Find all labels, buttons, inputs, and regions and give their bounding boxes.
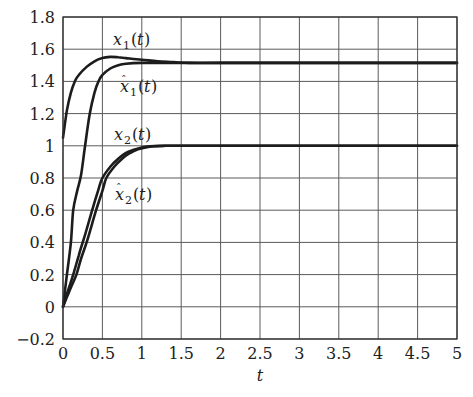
y-tick-label: 0.6 bbox=[30, 201, 55, 220]
svg-text:): ) bbox=[151, 77, 157, 96]
series-label-2: xˆ1(t) bbox=[120, 74, 157, 99]
y-tick-label: 1.8 bbox=[30, 8, 55, 27]
y-tick-label: 0.2 bbox=[30, 266, 55, 285]
svg-text:): ) bbox=[146, 185, 152, 204]
x-tick-label: 4 bbox=[373, 344, 383, 363]
svg-text:2: 2 bbox=[124, 134, 131, 147]
svg-text:ˆ: ˆ bbox=[116, 182, 122, 195]
x-tick-label: 3.5 bbox=[326, 344, 351, 363]
line-chart: −0.200.20.40.60.811.21.41.61.8 00.511.52… bbox=[0, 0, 473, 397]
y-tick-label: 0.4 bbox=[30, 233, 55, 252]
svg-text:1: 1 bbox=[130, 86, 137, 99]
series-label-4: xˆ2(t) bbox=[115, 182, 152, 207]
y-tick-label: 1.4 bbox=[30, 72, 55, 91]
y-tick-label: 1.6 bbox=[30, 40, 55, 59]
y-tick-label: 1.2 bbox=[30, 105, 55, 124]
svg-text:t: t bbox=[139, 185, 146, 204]
x-axis-label: t bbox=[257, 366, 264, 385]
x-tick-label: 2 bbox=[216, 344, 226, 363]
svg-text:t: t bbox=[144, 77, 151, 96]
svg-text:ˆ: ˆ bbox=[121, 74, 127, 87]
x-tick-label: 3 bbox=[294, 344, 304, 363]
y-tick-label: 0 bbox=[45, 298, 55, 317]
svg-text:): ) bbox=[144, 30, 150, 49]
svg-text:x: x bbox=[113, 30, 122, 49]
svg-text:x: x bbox=[114, 125, 123, 144]
svg-text:): ) bbox=[145, 125, 151, 144]
x-tick-label: 4.5 bbox=[405, 344, 430, 363]
x-tick-label: 1 bbox=[137, 344, 147, 363]
x-tick-label: 5 bbox=[452, 344, 462, 363]
y-tick-label: 0.8 bbox=[30, 169, 55, 188]
x-tick-label: 1.5 bbox=[168, 344, 193, 363]
svg-text:t: t bbox=[138, 125, 145, 144]
svg-text:t: t bbox=[137, 30, 144, 49]
y-tick-label: 1 bbox=[45, 137, 55, 156]
x-tick-label: 2.5 bbox=[247, 344, 272, 363]
series-label-1: x1(t) bbox=[113, 30, 150, 52]
x-tick-label: 0.5 bbox=[90, 344, 115, 363]
svg-text:2: 2 bbox=[125, 194, 132, 207]
svg-text:1: 1 bbox=[123, 39, 130, 52]
background bbox=[0, 0, 473, 397]
y-tick-label: −0.2 bbox=[16, 330, 55, 349]
x-tick-label: 0 bbox=[58, 344, 68, 363]
series-label-3: x2(t) bbox=[114, 125, 151, 147]
